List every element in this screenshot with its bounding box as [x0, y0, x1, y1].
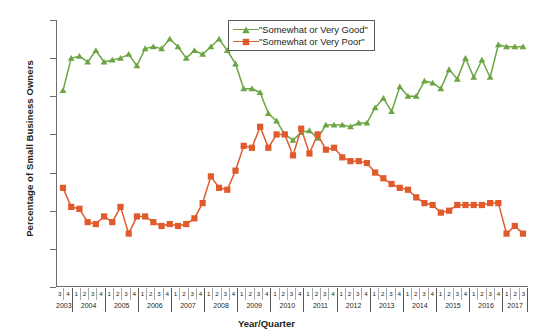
x-tick-quarter: 1	[205, 288, 213, 300]
data-point-triangle	[446, 66, 453, 72]
data-point-square	[430, 202, 436, 208]
data-point-triangle	[388, 108, 395, 114]
x-tick-quarter: 2	[379, 288, 387, 300]
x-tick-quarter: 3	[122, 288, 130, 300]
legend-item-good[interactable]: "Somewhat or Very Good"	[233, 23, 368, 35]
data-point-square	[315, 131, 321, 137]
plot-area	[56, 20, 528, 287]
x-tick-quarter: 2	[412, 288, 420, 300]
legend-swatch-poor	[233, 36, 259, 47]
x-tick-quarter: 4	[230, 288, 238, 300]
x-tick-quarter: 3	[520, 288, 528, 300]
x-tick-year: 2014	[404, 300, 437, 312]
x-tick-quarter: 4	[329, 288, 337, 300]
data-point-triangle	[232, 61, 239, 67]
square-marker-icon	[242, 38, 250, 46]
data-point-square	[446, 208, 452, 214]
series-line	[63, 39, 523, 140]
data-point-square	[183, 221, 189, 227]
x-tick-quarter: 2	[478, 288, 486, 300]
x-tick-quarter: 3	[454, 288, 462, 300]
data-point-square	[224, 187, 230, 193]
x-tick-quarter: 1	[437, 288, 445, 300]
data-point-square	[232, 168, 238, 174]
x-tick-quarter: 3	[222, 288, 230, 300]
x-tick-quarter: 4	[263, 288, 271, 300]
x-tick-year: 2007	[172, 300, 205, 312]
x-tick-quarter: 4	[462, 288, 470, 300]
data-point-triangle	[76, 53, 83, 59]
x-tick-quarter: 1	[238, 288, 246, 300]
data-point-triangle	[380, 95, 387, 101]
data-point-square	[298, 126, 304, 132]
data-point-square	[117, 204, 123, 210]
data-point-square	[68, 204, 74, 210]
data-point-triangle	[487, 74, 494, 80]
data-point-square	[282, 131, 288, 137]
x-tick-quarter: 4	[64, 288, 72, 300]
x-tick-quarter: 3	[288, 288, 296, 300]
x-tick-quarter: 2	[511, 288, 519, 300]
x-tick-quarter: 1	[271, 288, 279, 300]
data-point-square	[76, 206, 82, 212]
legend-item-poor[interactable]: "Somewhat or Very Poor"	[233, 35, 368, 47]
data-point-square	[454, 202, 460, 208]
data-point-square	[512, 223, 518, 229]
x-axis-quarter-labels: 3412341234123412341234123412341234123412…	[56, 288, 528, 300]
x-tick-quarter: 1	[304, 288, 312, 300]
chart-figure: Percentage of Small Business Owners 0%10…	[0, 0, 533, 335]
data-point-square	[471, 202, 477, 208]
data-point-square	[438, 210, 444, 216]
data-point-square	[126, 231, 132, 237]
x-tick-quarter: 1	[172, 288, 180, 300]
data-point-square	[397, 185, 403, 191]
data-point-square	[150, 219, 156, 225]
data-point-square	[487, 200, 493, 206]
x-tick-quarter: 4	[164, 288, 172, 300]
data-point-square	[421, 200, 427, 206]
x-tick-quarter: 2	[213, 288, 221, 300]
data-point-square	[167, 221, 173, 227]
data-point-triangle	[60, 87, 67, 93]
x-tick-year: 2010	[271, 300, 304, 312]
x-tick-quarter: 3	[255, 288, 263, 300]
x-tick-quarter: 4	[362, 288, 370, 300]
x-tick-year: 2011	[304, 300, 337, 312]
data-point-triangle	[166, 36, 173, 42]
data-point-square	[364, 160, 370, 166]
data-point-triangle	[470, 74, 477, 80]
data-point-square	[85, 219, 91, 225]
x-tick-quarter: 2	[180, 288, 188, 300]
x-tick-quarter: 1	[503, 288, 511, 300]
x-tick-quarter: 4	[429, 288, 437, 300]
x-tick-year: 2003	[56, 300, 73, 312]
x-tick-quarter: 3	[155, 288, 163, 300]
data-point-triangle	[306, 127, 313, 133]
x-tick-year: 2005	[106, 300, 139, 312]
data-point-square	[257, 124, 263, 130]
x-tick-quarter: 3	[89, 288, 97, 300]
data-point-square	[331, 145, 337, 151]
x-tick-quarter: 4	[396, 288, 404, 300]
data-point-square	[241, 143, 247, 149]
data-point-square	[356, 158, 362, 164]
x-tick-quarter: 3	[189, 288, 197, 300]
x-tick-quarter: 2	[147, 288, 155, 300]
legend-swatch-good	[233, 24, 259, 35]
data-point-triangle	[396, 83, 403, 89]
x-tick-quarter: 1	[106, 288, 114, 300]
x-tick-quarter: 3	[56, 288, 64, 300]
data-point-square	[462, 202, 468, 208]
data-point-square	[290, 152, 296, 158]
data-point-square	[60, 185, 66, 191]
data-point-square	[216, 185, 222, 191]
x-tick-quarter: 1	[470, 288, 478, 300]
x-tick-quarter: 4	[495, 288, 503, 300]
data-point-square	[200, 200, 206, 206]
data-point-square	[175, 223, 181, 229]
x-tick-year: 2017	[503, 300, 528, 312]
x-tick-quarter: 2	[280, 288, 288, 300]
data-point-triangle	[150, 43, 157, 49]
data-point-square	[265, 145, 271, 151]
series-good	[60, 36, 527, 143]
